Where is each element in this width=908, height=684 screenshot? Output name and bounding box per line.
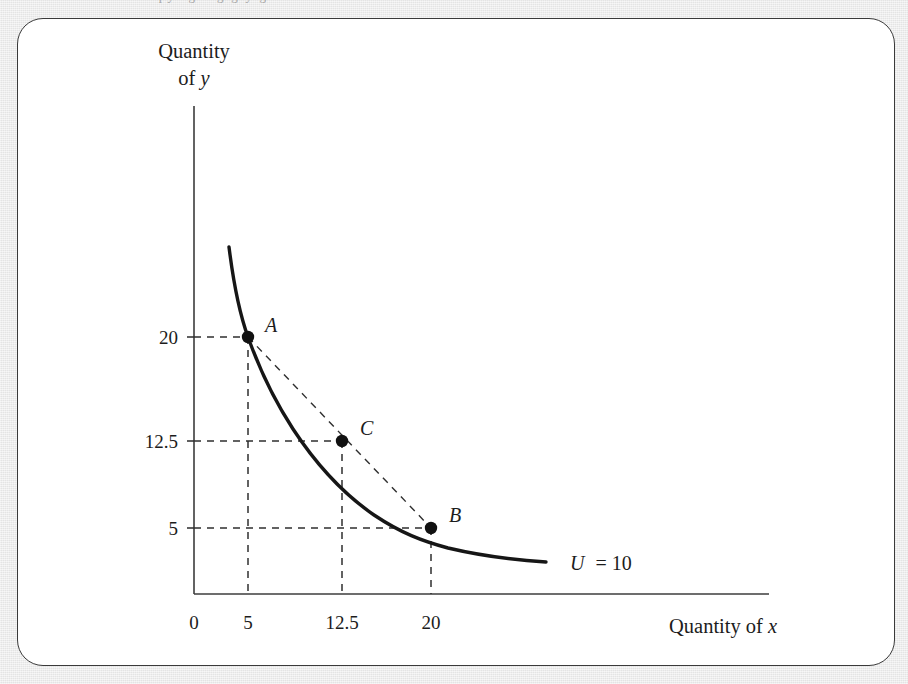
y-axis-title-line1: Quantity <box>158 40 230 63</box>
curve-label-u-symbol: U <box>570 552 586 574</box>
axes-group <box>194 106 769 594</box>
y-tick-label-20: 20 <box>159 327 178 348</box>
x-axis-title-prefix: Quantity of <box>669 615 768 638</box>
point-b-marker <box>425 522 437 534</box>
y-axis-title-variable: y <box>199 67 211 90</box>
x-tick-label-0: 0 <box>189 612 199 633</box>
x-tick-label-12point5: 12.5 <box>325 612 358 633</box>
point-c-marker <box>336 435 348 447</box>
point-a-label: A <box>263 314 278 336</box>
indifference-curve <box>229 247 546 562</box>
x-axis-title: Quantity of x <box>669 615 777 638</box>
x-axis-title-variable: x <box>767 615 777 637</box>
guide-lines-group <box>194 337 431 594</box>
clipped-copyright-strip: opyright g g y g o <box>0 0 908 10</box>
indifference-curve-chart: A C B U = 10 20 12.5 5 0 5 12.5 20 Quant… <box>18 19 895 666</box>
y-axis-title-of: of <box>178 67 200 89</box>
figure-card: A C B U = 10 20 12.5 5 0 5 12.5 20 Quant… <box>17 18 895 666</box>
chord-a-to-b <box>248 337 431 528</box>
curve-label-u10: U = 10 <box>570 552 632 574</box>
point-b-label: B <box>449 504 461 526</box>
y-tick-marks <box>187 337 194 528</box>
x-tick-label-20: 20 <box>422 612 441 633</box>
curve-label-value: = 10 <box>595 552 631 574</box>
point-a-marker <box>242 331 254 343</box>
clipped-copyright-text: opyright g g y g o <box>150 0 282 3</box>
x-tick-label-5: 5 <box>243 612 253 633</box>
y-tick-label-5: 5 <box>169 518 179 539</box>
y-axis-title-line2: of y <box>178 67 210 90</box>
y-tick-label-12point5: 12.5 <box>145 431 178 452</box>
point-c-label: C <box>360 417 374 439</box>
